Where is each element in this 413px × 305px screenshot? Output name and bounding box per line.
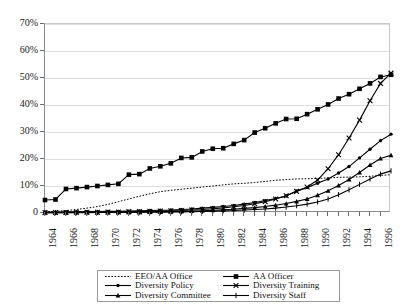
series-marker xyxy=(326,102,331,107)
series-marker xyxy=(336,96,341,101)
series-marker xyxy=(200,149,205,154)
legend-entry-diversity-staff[interactable]: Diversity Staff xyxy=(222,291,335,300)
x-axis-tick-label: 1972 xyxy=(132,228,142,248)
series-marker xyxy=(368,163,373,167)
x-axis-tick-label: 1964 xyxy=(48,228,58,248)
series-marker xyxy=(106,183,111,188)
series-marker xyxy=(43,198,48,203)
series-diversity-policy xyxy=(43,132,392,213)
series-marker xyxy=(305,112,310,117)
series-marker xyxy=(284,117,289,122)
y-axis: 010%20%30%40%50%60%70% xyxy=(0,0,44,215)
legend-entry-diversity-committee[interactable]: Diversity Committee xyxy=(104,291,222,300)
series-marker xyxy=(53,197,58,202)
series-marker xyxy=(326,177,329,180)
series-marker xyxy=(169,161,174,166)
series-marker xyxy=(64,187,69,192)
series-line xyxy=(45,75,391,200)
x-axis-tick-label: 1980 xyxy=(216,228,226,248)
x-axis-tick-label: 1982 xyxy=(237,228,247,248)
series-marker xyxy=(326,166,331,171)
legend: EEO/AA OfficeAA OfficerDiversity PolicyD… xyxy=(97,270,340,302)
series-marker xyxy=(336,183,341,187)
series-marker xyxy=(95,184,100,189)
series-marker xyxy=(368,148,371,151)
x-axis-tick-label: 1978 xyxy=(195,228,205,248)
y-axis-tick-label: 50% xyxy=(20,72,38,82)
series-marker xyxy=(231,142,236,147)
series-marker xyxy=(378,81,383,86)
y-axis-tick-label: 30% xyxy=(20,126,38,136)
legend-dot-marker-icon xyxy=(104,281,132,290)
legend-none-marker-icon xyxy=(104,272,132,281)
legend-plus-marker-icon xyxy=(222,291,250,300)
series-marker xyxy=(357,87,362,92)
x-axis-tick-label: 1994 xyxy=(363,228,373,248)
y-axis-tick-label: 70% xyxy=(20,18,38,28)
x-axis-tick-label: 1966 xyxy=(69,228,79,248)
series-marker xyxy=(158,164,163,169)
series-marker xyxy=(368,81,373,86)
y-axis-tick-label: 20% xyxy=(20,153,38,163)
series-marker xyxy=(389,153,394,157)
legend-x-marker-icon xyxy=(222,281,250,290)
x-axis-tick-label: 1992 xyxy=(342,228,352,248)
y-axis-tick-label: 10% xyxy=(20,180,38,190)
series-layer xyxy=(45,24,391,213)
series-marker xyxy=(368,98,373,103)
x-axis-tick-label: 1986 xyxy=(279,228,289,248)
y-axis-tick-label: 40% xyxy=(20,99,38,109)
x-axis-tick-label: 1968 xyxy=(90,228,100,248)
series-aa-officer xyxy=(43,72,394,202)
x-axis-tick-label: 1976 xyxy=(174,228,184,248)
legend-square-marker-icon xyxy=(222,272,250,281)
plot-area xyxy=(44,23,390,212)
series-marker xyxy=(378,75,383,80)
legend-label: Diversity Staff xyxy=(253,291,306,300)
x-axis-labels: 1964196619681970197219741976197819801982… xyxy=(0,216,413,266)
series-marker xyxy=(337,171,340,174)
series-marker xyxy=(294,116,299,121)
chart-root: 010%20%30%40%50%60%70% 19641966196819701… xyxy=(0,0,413,305)
series-marker xyxy=(326,188,331,192)
series-marker xyxy=(85,185,90,190)
series-marker xyxy=(148,166,153,171)
x-axis-tick-label: 1996 xyxy=(384,228,394,248)
series-marker xyxy=(127,172,132,177)
series-marker xyxy=(74,186,79,191)
series-marker xyxy=(137,172,142,177)
series-eeo-aa-office xyxy=(45,175,391,212)
series-marker xyxy=(210,146,215,151)
series-marker xyxy=(389,132,392,135)
x-axis-tick-label: 1970 xyxy=(111,228,121,248)
series-marker xyxy=(189,155,194,160)
series-line xyxy=(45,73,391,212)
series-marker xyxy=(358,156,361,159)
x-axis-tick-label: 1988 xyxy=(300,228,310,248)
series-line xyxy=(45,175,391,212)
series-marker xyxy=(357,118,362,123)
legend-label: Diversity Committee xyxy=(135,291,211,300)
x-axis-tick-label: 1974 xyxy=(153,228,163,248)
series-marker xyxy=(116,182,121,187)
x-axis-tick-label: 1984 xyxy=(258,228,268,248)
series-marker xyxy=(347,165,350,168)
y-axis-tick-label: 60% xyxy=(20,45,38,55)
series-marker xyxy=(179,156,184,161)
legend-grid: EEO/AA OfficeAA OfficerDiversity PolicyD… xyxy=(98,271,339,301)
series-marker xyxy=(263,126,268,131)
x-axis-tick-label: 1990 xyxy=(321,228,331,248)
series-marker xyxy=(336,152,341,157)
legend-triangle-marker-icon xyxy=(104,291,132,300)
series-marker xyxy=(347,92,352,97)
series-marker xyxy=(379,139,382,142)
series-marker xyxy=(347,136,352,141)
series-marker xyxy=(315,107,320,112)
series-marker xyxy=(316,182,319,185)
series-marker xyxy=(221,146,226,151)
series-marker xyxy=(273,121,278,126)
series-marker xyxy=(242,138,247,143)
series-marker xyxy=(252,130,257,135)
